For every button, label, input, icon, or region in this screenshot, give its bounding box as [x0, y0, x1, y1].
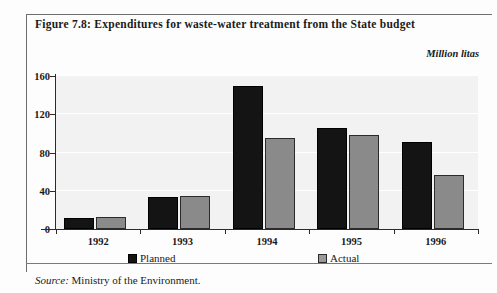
x-axis-category-label: 1996	[425, 236, 446, 247]
y-axis-tick-label: 120	[34, 109, 50, 120]
legend-item-actual[interactable]: Actual	[318, 252, 359, 264]
bar-group	[394, 76, 478, 229]
bar-actual-1994[interactable]	[265, 138, 295, 229]
unit-label: Million litas	[426, 48, 479, 59]
bar-group	[225, 76, 309, 229]
x-axis-category-label: 1995	[341, 236, 362, 247]
x-axis-category-label: 1992	[88, 236, 109, 247]
source-label: Source:	[35, 274, 69, 286]
bar-planned-1995[interactable]	[317, 128, 347, 229]
y-axis-tick-label: 40	[40, 185, 51, 196]
bar-group	[309, 76, 393, 229]
y-axis-tick-mark	[50, 191, 55, 192]
legend-swatch-actual-icon	[318, 254, 327, 263]
source-note: Source: Ministry of the Environment.	[35, 274, 201, 286]
bar-actual-1993[interactable]	[180, 196, 210, 229]
x-axis-line	[41, 229, 479, 230]
x-axis-category-label: 1993	[172, 236, 193, 247]
bar-series-container	[56, 76, 478, 229]
y-axis-tick-mark	[50, 229, 55, 230]
x-axis-tick-mark	[225, 229, 226, 234]
x-axis-category-label: 1994	[257, 236, 278, 247]
legend-label: Actual	[330, 252, 359, 264]
legend-swatch-planned-icon	[128, 254, 137, 263]
x-axis-tick-mark	[56, 229, 57, 234]
y-axis-tick-label: 80	[40, 147, 51, 158]
bar-group	[56, 76, 140, 229]
bar-actual-1992[interactable]	[96, 217, 126, 229]
x-axis-tick-mark	[478, 229, 479, 234]
x-axis-tick-mark	[394, 229, 395, 234]
chart-legend: PlannedActual	[0, 252, 497, 268]
y-axis-tick-mark	[50, 76, 55, 77]
y-axis-tick-mark	[50, 153, 55, 154]
legend-label: Planned	[140, 252, 175, 264]
x-axis-tick-mark	[309, 229, 310, 234]
y-axis-tick-labels: 04080120160	[18, 76, 50, 229]
scanned-page: Figure 7.8: Expenditures for waste-water…	[0, 0, 497, 293]
x-axis-tick-mark	[140, 229, 141, 234]
bar-planned-1992[interactable]	[64, 218, 94, 229]
y-axis-tick-mark	[50, 114, 55, 115]
bar-actual-1996[interactable]	[434, 175, 464, 230]
bar-actual-1995[interactable]	[349, 135, 379, 229]
bar-group	[140, 76, 224, 229]
y-axis-tick-label: 160	[34, 71, 50, 82]
page-title: Figure 7.8: Expenditures for waste-water…	[35, 18, 415, 30]
legend-item-planned[interactable]: Planned	[128, 252, 175, 264]
bar-planned-1993[interactable]	[148, 197, 178, 230]
bar-planned-1996[interactable]	[402, 142, 432, 229]
bar-planned-1994[interactable]	[233, 86, 263, 229]
source-value: Ministry of the Environment.	[72, 274, 201, 286]
